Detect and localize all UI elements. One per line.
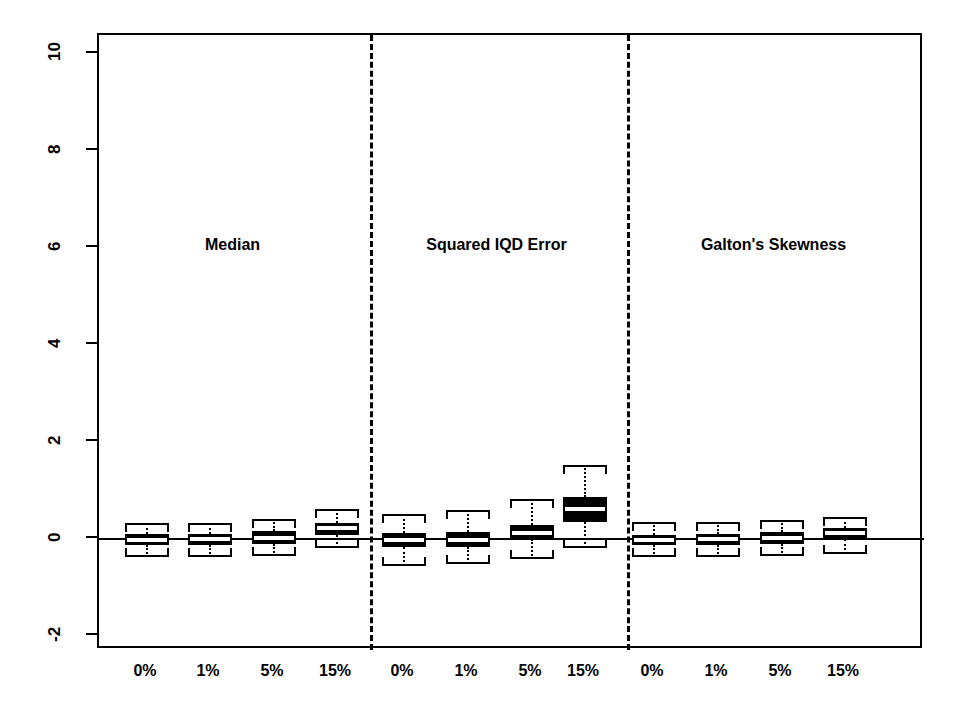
median-line [698, 537, 738, 541]
x-tick-label: 0% [115, 662, 175, 680]
whisker-cap-upper [382, 514, 426, 523]
y-tick-mark [86, 439, 97, 441]
panel-title-3: Galton's Skewness [624, 236, 924, 254]
chart-canvas: -20246810 0%1%5%15%0%1%5%15%0%1%5%15% Me… [0, 0, 957, 709]
y-tick-label: 8 [46, 129, 68, 169]
whisker-cap-upper [760, 520, 804, 529]
y-tick-mark [86, 536, 97, 538]
panel-separator [370, 35, 373, 650]
whisker-cap-lower [510, 550, 554, 559]
y-tick-label: 10 [46, 32, 68, 72]
whisker-cap-lower [315, 539, 359, 548]
plot-area [97, 33, 922, 648]
whisker-cap-lower [252, 547, 296, 556]
x-tick-label: 5% [242, 662, 302, 680]
whisker-cap-lower [760, 547, 804, 556]
median-line [512, 531, 552, 535]
x-tick-label: 1% [686, 662, 746, 680]
x-tick-label: 15% [305, 662, 365, 680]
y-tick-label: 4 [46, 323, 68, 363]
median-line [254, 536, 294, 540]
median-line [384, 538, 424, 542]
whisker-cap-upper [696, 522, 740, 531]
whisker-cap-lower [632, 548, 676, 557]
y-tick-label: 0 [46, 517, 68, 557]
whisker-cap-upper [252, 519, 296, 528]
whisker-cap-lower [446, 555, 490, 564]
median-line [317, 526, 357, 530]
median-line [762, 536, 802, 540]
x-tick-label: 5% [500, 662, 560, 680]
median-line [634, 538, 674, 542]
whisker-cap-upper [510, 499, 554, 508]
y-tick-mark [86, 51, 97, 53]
whisker-cap-upper [125, 523, 169, 532]
y-tick-mark [86, 342, 97, 344]
whisker-cap-upper [315, 509, 359, 518]
x-tick-label: 1% [178, 662, 238, 680]
x-tick-label: 0% [372, 662, 432, 680]
whisker-cap-lower [823, 545, 867, 554]
y-tick-label: 2 [46, 420, 68, 460]
y-tick-label: -2 [46, 614, 68, 654]
x-tick-label: 15% [813, 662, 873, 680]
whisker-cap-upper [563, 465, 607, 474]
x-tick-label: 1% [436, 662, 496, 680]
whisker-cap-lower [188, 548, 232, 557]
x-tick-label: 0% [622, 662, 682, 680]
panel-title-2: Squared IQD Error [347, 236, 647, 254]
x-tick-label: 5% [750, 662, 810, 680]
y-tick-mark [86, 148, 97, 150]
whisker-cap-upper [188, 523, 232, 532]
median-line [448, 538, 488, 542]
panel-title-1: Median [83, 236, 383, 254]
whisker-cap-lower [125, 548, 169, 557]
x-tick-label: 15% [553, 662, 613, 680]
median-line [190, 537, 230, 541]
whisker-cap-upper [446, 510, 490, 519]
median-line [127, 538, 167, 542]
y-tick-label: 6 [46, 226, 68, 266]
whisker-cap-lower [563, 539, 607, 548]
median-line [825, 531, 865, 535]
whisker-cap-lower [382, 557, 426, 566]
median-line [565, 507, 605, 511]
whisker-cap-upper [823, 517, 867, 526]
panel-separator [627, 35, 630, 650]
whisker-cap-upper [632, 522, 676, 531]
y-tick-mark [86, 633, 97, 635]
whisker-cap-lower [696, 548, 740, 557]
